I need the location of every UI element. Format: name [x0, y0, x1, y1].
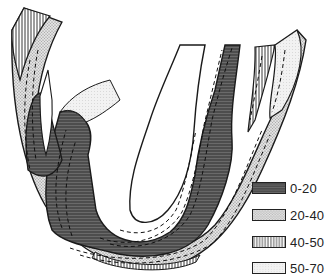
legend-item-0-20: 0-20: [252, 180, 317, 196]
swatch-dark-hatch-icon: [252, 182, 286, 194]
legend-label: 40-50: [290, 235, 324, 250]
swatch-vertical-lines-icon: [252, 236, 286, 248]
legend-item-20-40: 20-40: [252, 207, 324, 223]
swatch-stipple-icon: [252, 209, 286, 221]
legend-label: 50-70: [290, 261, 324, 276]
zone-50-70-right: [270, 30, 301, 118]
legend-label: 20-40: [290, 208, 324, 223]
legend-item-40-50: 40-50: [252, 234, 324, 250]
swatch-light-dots-icon: [252, 262, 286, 274]
legend-label: 0-20: [290, 181, 317, 196]
legend-item-50-70: 50-70: [252, 260, 324, 276]
